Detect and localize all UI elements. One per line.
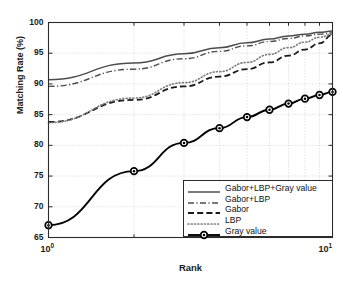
- data-point-center: [318, 94, 321, 97]
- legend-item[interactable]: Gray value: [187, 225, 332, 236]
- legend-item-label: Gray value: [225, 226, 267, 236]
- series-line: [49, 35, 333, 122]
- y-tick-label: 70: [14, 201, 44, 211]
- chart-legend: Gabor+LBP+Gray valueGabor+LBPGaborLBPGra…: [183, 180, 333, 237]
- data-point-center: [287, 102, 290, 105]
- y-tick-label: 100: [14, 17, 44, 27]
- series-gabor-lbp: [49, 33, 333, 86]
- legend-item-label: Gabor+LBP: [225, 194, 270, 204]
- data-point-center: [304, 97, 307, 100]
- x-tick-label: 101: [319, 242, 333, 254]
- legend-line-sample: [187, 183, 221, 193]
- x-tick-label: 100: [41, 242, 55, 254]
- series-line: [49, 34, 333, 122]
- y-tick-label: 80: [14, 139, 44, 149]
- data-point-center: [218, 127, 221, 130]
- series-line: [49, 33, 333, 86]
- series-gabor: [49, 35, 333, 122]
- data-point-center: [246, 116, 249, 119]
- y-tick-label: 85: [14, 109, 44, 119]
- x-tick-base: 10: [319, 244, 329, 254]
- data-point-center: [183, 142, 186, 145]
- y-tick-label: 95: [14, 47, 44, 57]
- y-tick-label: 90: [14, 78, 44, 88]
- legend-item[interactable]: LBP: [187, 215, 332, 226]
- legend-item-label: LBP: [225, 215, 241, 225]
- legend-item[interactable]: Gabor+LBP+Gray value: [187, 183, 332, 194]
- legend-item[interactable]: Gabor: [187, 204, 332, 215]
- legend-item-label: Gabor+LBP+Gray value: [225, 183, 317, 193]
- legend-item-label: Gabor: [225, 204, 249, 214]
- series-lbp: [49, 34, 333, 122]
- legend-line-sample: [187, 204, 221, 214]
- x-tick-base: 10: [41, 244, 51, 254]
- legend-item[interactable]: Gabor+LBP: [187, 194, 332, 205]
- legend-line-sample: [187, 215, 221, 225]
- figure-cmc-chart: Matching Rate (%) Rank 10095908580757065…: [0, 0, 343, 283]
- x-tick-exponent: 0: [51, 242, 55, 249]
- y-tick-label: 75: [14, 170, 44, 180]
- legend-line-sample: [187, 226, 221, 236]
- x-tick-exponent: 1: [329, 242, 333, 249]
- data-point-center: [268, 108, 271, 111]
- data-point-center: [133, 170, 136, 173]
- x-axis-label: Rank: [48, 262, 333, 273]
- y-tick-label: 65: [14, 232, 44, 242]
- legend-line-sample: [187, 194, 221, 204]
